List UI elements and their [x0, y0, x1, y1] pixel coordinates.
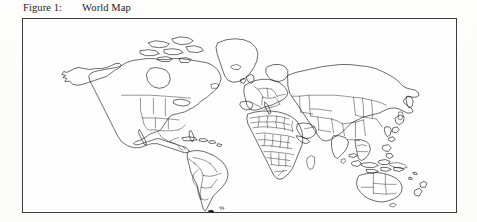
figure-frame: World Map	[22, 18, 457, 213]
region-south-america	[187, 151, 228, 212]
madagascar	[307, 156, 315, 170]
tierra-del-fuego	[208, 210, 214, 212]
indonesia-archipelago	[349, 145, 404, 174]
region-asia	[288, 65, 419, 174]
iceland	[231, 65, 241, 70]
tasmania	[390, 203, 396, 207]
region-africa	[247, 111, 315, 179]
figure-caption-title: World Map	[82, 1, 131, 15]
falkland-islands	[220, 207, 224, 209]
newfoundland	[211, 83, 219, 88]
korean-peninsula	[384, 127, 391, 137]
horn-of-africa	[297, 136, 310, 144]
indian-subcontinent	[332, 136, 349, 159]
alaska-outline	[62, 64, 122, 86]
new-zealand	[414, 181, 427, 196]
region-europe	[231, 65, 288, 114]
north-america-borders	[122, 95, 191, 150]
figure-caption: Figure 1: World Map	[23, 1, 131, 15]
indochina-peninsula	[355, 140, 370, 161]
asia-mainland	[288, 65, 419, 141]
scandinavia	[266, 65, 288, 82]
kamchatka-peninsula	[406, 96, 413, 108]
greenland-outline	[216, 39, 258, 83]
caribbean-islands	[182, 137, 222, 147]
sri-lanka	[342, 159, 346, 164]
great-lakes	[173, 99, 190, 106]
region-greenland	[216, 39, 258, 83]
figure-caption-label: Figure 1:	[23, 1, 62, 15]
africa-mainland	[247, 111, 303, 179]
africa-borders	[250, 116, 295, 176]
pacific-islets	[409, 172, 417, 179]
world-map-graphic: World Map	[23, 19, 456, 212]
region-north-america	[62, 37, 222, 153]
south-america-borders	[188, 158, 221, 201]
hudson-bay	[146, 67, 170, 88]
australia-borders	[361, 173, 396, 194]
europe-mainland	[244, 79, 288, 110]
